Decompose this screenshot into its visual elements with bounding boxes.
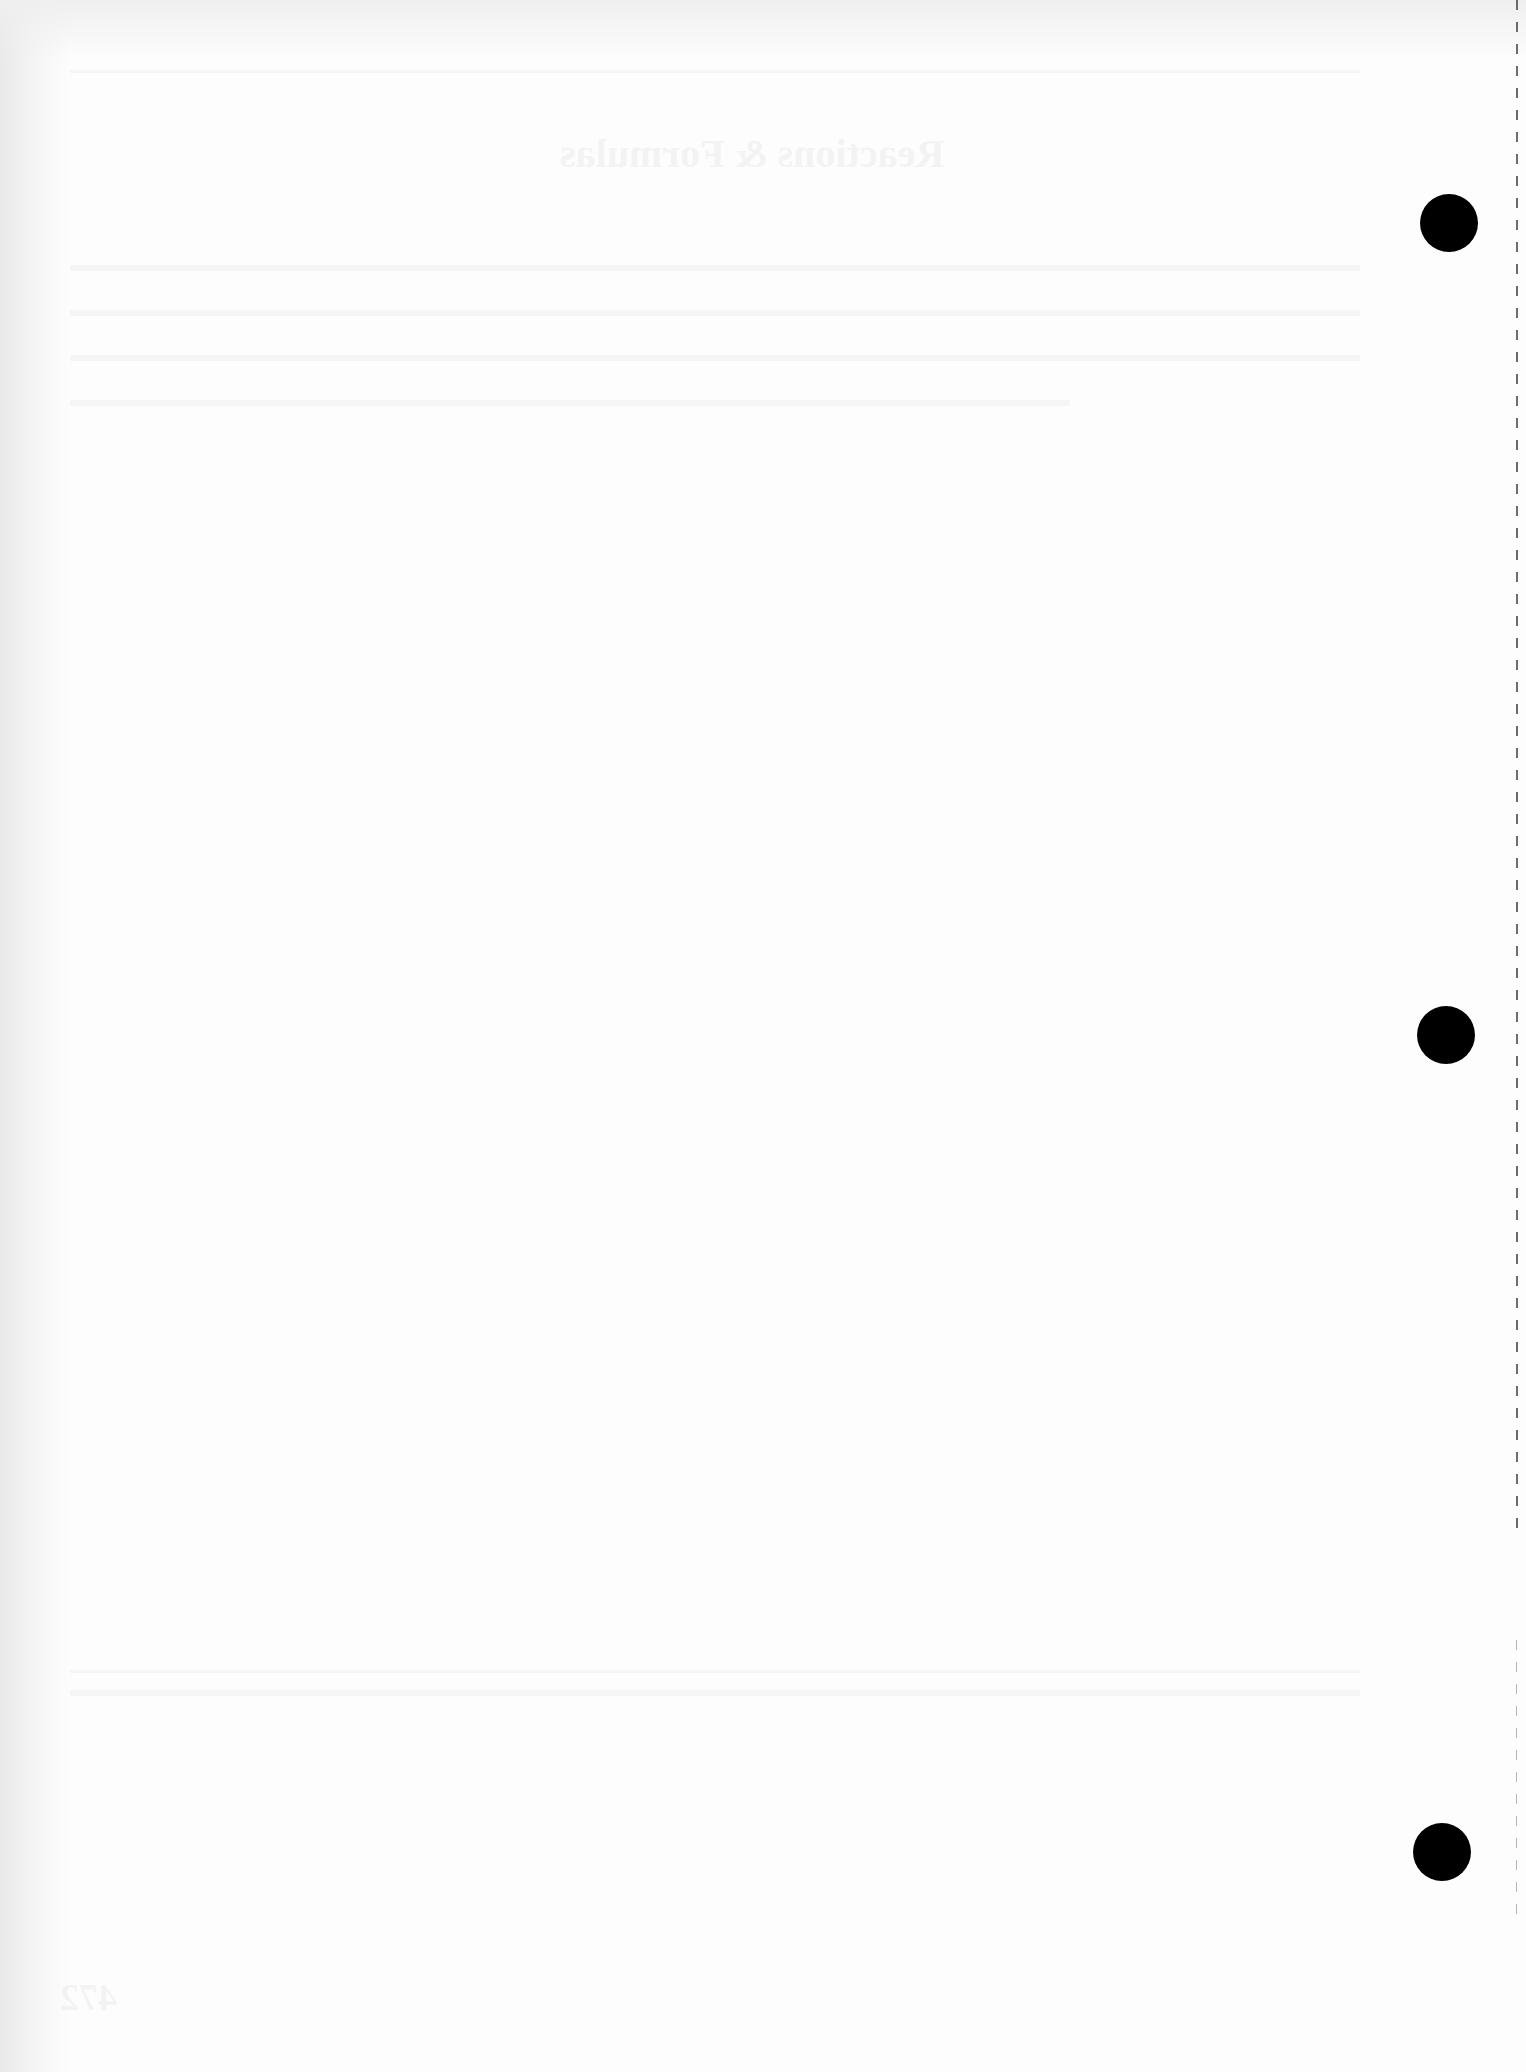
- bleed-through-rule: [70, 70, 1360, 73]
- bleed-through-rule: [70, 1670, 1360, 1673]
- bleed-through-text-line: [70, 400, 1070, 406]
- bleed-through-text-line: [70, 1690, 1360, 1696]
- punch-hole-top: [1420, 194, 1478, 252]
- bleed-through-title: Reactions & Formulas: [560, 130, 944, 177]
- punch-hole-bottom: [1413, 1823, 1471, 1881]
- bleed-through-text-line: [70, 265, 1360, 271]
- bleed-through-text-line: [70, 310, 1360, 316]
- top-edge-shadow: [0, 0, 1526, 60]
- scanned-page: Reactions & Formulas 472: [0, 0, 1526, 2072]
- gutter-shadow: [0, 0, 70, 2072]
- bleed-through-page-number: 472: [60, 1975, 117, 2019]
- perforation-line: [1516, 0, 1518, 1540]
- punch-hole-middle: [1417, 1006, 1475, 1064]
- perforation-line-faint: [1516, 1640, 1517, 1920]
- bleed-through-text-line: [70, 355, 1360, 361]
